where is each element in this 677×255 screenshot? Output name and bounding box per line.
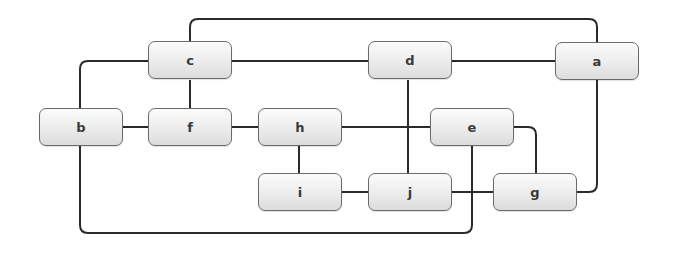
node-label: j xyxy=(408,185,412,200)
edge-c-a xyxy=(190,19,597,42)
node-label: g xyxy=(530,185,539,200)
edge-c-b xyxy=(80,61,148,108)
node-d[interactable]: d xyxy=(368,41,452,79)
node-b[interactable]: b xyxy=(39,108,123,146)
node-i[interactable]: i xyxy=(258,173,342,211)
node-j[interactable]: j xyxy=(368,173,452,211)
node-c[interactable]: c xyxy=(148,41,232,79)
node-label: i xyxy=(298,185,302,200)
node-label: b xyxy=(76,120,85,135)
node-label: a xyxy=(593,54,602,69)
node-label: f xyxy=(187,120,193,135)
node-label: d xyxy=(405,53,414,68)
edge-g-a xyxy=(576,80,597,192)
graph-diagram: c d a b f h e i j g xyxy=(0,0,677,255)
node-h[interactable]: h xyxy=(258,108,342,146)
node-e[interactable]: e xyxy=(430,108,514,146)
node-g[interactable]: g xyxy=(493,173,577,211)
node-a[interactable]: a xyxy=(555,42,639,80)
node-label: e xyxy=(468,120,477,135)
node-label: h xyxy=(295,120,304,135)
node-label: c xyxy=(186,53,194,68)
edge-e-g xyxy=(513,127,536,173)
node-f[interactable]: f xyxy=(148,108,232,146)
